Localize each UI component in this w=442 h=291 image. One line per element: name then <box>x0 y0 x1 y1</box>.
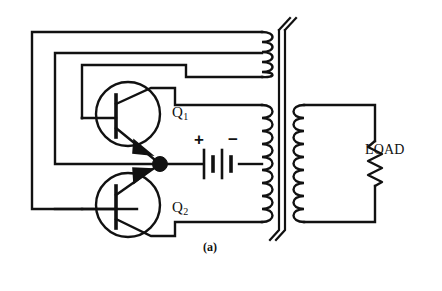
circuit-figure: Q1 Q2 LOAD + − (a) <box>0 0 442 291</box>
transistor-q2-envelope <box>96 173 160 237</box>
figure-caption: (a) <box>203 241 217 253</box>
transistor-q1-collector-lead <box>116 88 262 105</box>
transformer-primary-upper-winding <box>262 32 273 77</box>
wire-secondary-to-load-top <box>304 105 375 141</box>
transformer-core-line-right <box>276 30 285 240</box>
emitter-common-node-dot <box>153 157 168 172</box>
transistor-q1-label: Q1 <box>172 105 188 122</box>
transformer-primary-lower-winding <box>262 105 273 222</box>
transformer-core-top-slant-right <box>285 18 296 30</box>
wire-secondary-to-load-bottom <box>304 186 375 222</box>
transistor-q2-collector-lead <box>116 219 262 236</box>
load-label: LOAD <box>365 143 405 157</box>
transformer-core-top-slant-left <box>279 18 290 30</box>
transistor-q2-label: Q2 <box>172 200 188 217</box>
transformer-secondary-winding <box>294 105 305 222</box>
wire-outer-feedback-loop <box>32 32 262 209</box>
battery-negative-label: − <box>228 131 238 148</box>
battery-positive-label: + <box>194 131 204 148</box>
